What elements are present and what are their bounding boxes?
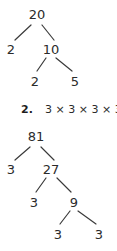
factor-branch: [15, 147, 30, 160]
factor-node: 3: [54, 228, 62, 241]
factor-node: 2: [31, 75, 39, 88]
factor-branch: [41, 147, 54, 160]
factor-branch: [56, 58, 72, 71]
factor-branch: [42, 25, 54, 40]
question-number: 2.: [21, 103, 33, 116]
factor-node: 3: [30, 196, 38, 209]
factor-branch: [78, 211, 96, 224]
factor-branch: [57, 178, 71, 192]
answer-line: 2. 3 × 3 × 3 × 3: [0, 103, 117, 119]
factor-branch: [37, 58, 46, 71]
factor-node: 5: [71, 75, 79, 88]
answer-expression: 3 × 3 × 3 × 3: [45, 103, 117, 116]
factor-node: 3: [7, 163, 15, 176]
factor-node: 20: [29, 8, 46, 21]
factor-node: 2: [7, 43, 15, 56]
factor-tree-20: 2021025: [0, 0, 117, 92]
worksheet-page: 2021025 2. 3 × 3 × 3 × 3 813273933: [0, 0, 117, 251]
factor-node: 3: [95, 228, 103, 241]
factor-node: 9: [70, 196, 78, 209]
factor-node: 10: [43, 43, 60, 56]
factor-tree-81: 813273933: [0, 125, 117, 251]
factor-branch: [15, 25, 31, 40]
factor-branch: [36, 178, 46, 192]
factor-branch: [60, 211, 70, 224]
factor-node: 81: [28, 130, 45, 143]
factor-node: 27: [43, 163, 60, 176]
